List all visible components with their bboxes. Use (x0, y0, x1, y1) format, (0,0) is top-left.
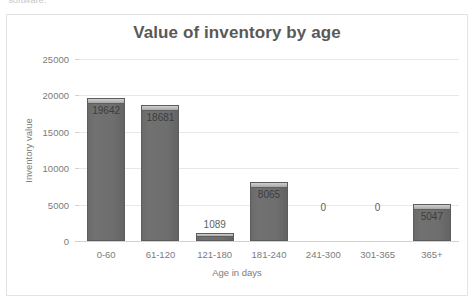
plot-area: 196421868110898065005047 050001000015000… (79, 59, 459, 241)
x-tick-label: 181-240 (252, 249, 287, 260)
bar-value-label: 18681 (147, 112, 175, 123)
bar-value-label: 8065 (258, 189, 280, 200)
bar-cap (197, 234, 233, 237)
chart-container: Value of inventory by age Inventory valu… (6, 14, 468, 296)
gridline (79, 241, 459, 242)
bar-slot: 1089 (188, 59, 242, 241)
bar-slot: 0 (296, 59, 350, 241)
bar-cap (88, 99, 124, 104)
bar-value-label: 0 (375, 202, 381, 213)
cropped-text-sliver: software. (8, 0, 47, 6)
x-axis-title: Age in days (7, 267, 467, 278)
bar[interactable] (413, 204, 451, 241)
x-tick-label: 365+ (421, 249, 442, 260)
y-tick-label: 15000 (23, 126, 69, 137)
bar-slot: 18681 (133, 59, 187, 241)
y-tick-label: 20000 (23, 90, 69, 101)
bar-value-label: 5047 (421, 211, 443, 222)
bar[interactable] (141, 105, 179, 241)
bar[interactable] (196, 233, 234, 241)
bar-value-label: 1089 (204, 219, 226, 230)
x-tick-label: 121-180 (197, 249, 232, 260)
x-tick-label: 301-365 (360, 249, 395, 260)
x-tick-label: 0-60 (97, 249, 116, 260)
chart-title: Value of inventory by age (7, 23, 467, 43)
bar-slot: 8065 (242, 59, 296, 241)
bar-cap (251, 183, 287, 188)
bar-cap (414, 205, 450, 210)
y-axis-title: Inventory value (21, 59, 35, 241)
bar[interactable] (87, 98, 125, 241)
y-tick-label: 10000 (23, 163, 69, 174)
y-tick-label: 0 (23, 236, 69, 247)
y-tick-label: 25000 (23, 54, 69, 65)
bar-value-label: 19642 (92, 105, 120, 116)
bar-slot: 19642 (79, 59, 133, 241)
y-tick-mark (75, 241, 79, 242)
bar-slot: 5047 (405, 59, 459, 241)
bar-cap (142, 106, 178, 111)
x-tick-label: 241-300 (306, 249, 341, 260)
bar-series: 196421868110898065005047 (79, 59, 459, 241)
bar-slot: 0 (350, 59, 404, 241)
x-tick-label: 61-120 (146, 249, 176, 260)
bar-value-label: 0 (321, 202, 327, 213)
y-tick-label: 5000 (23, 199, 69, 210)
